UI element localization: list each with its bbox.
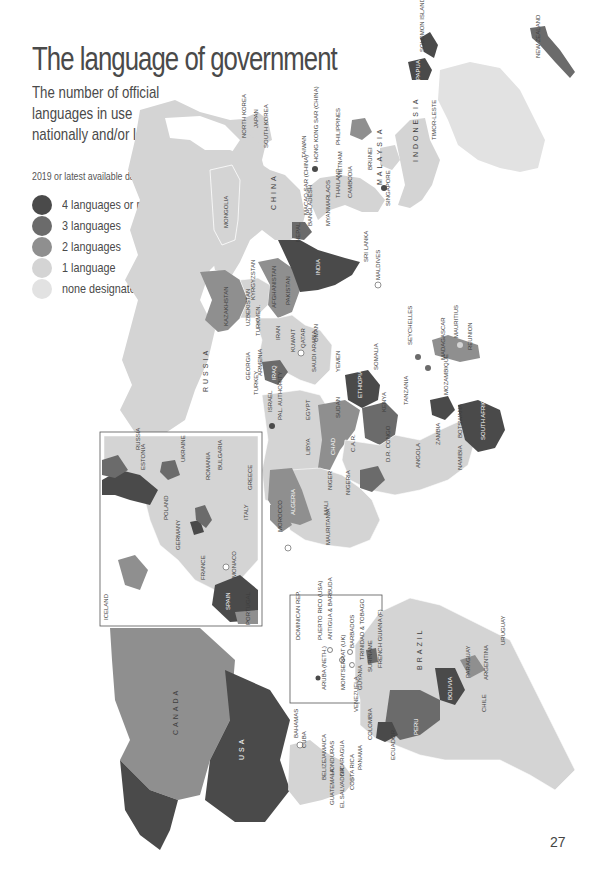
label-spain: SPAIN xyxy=(225,592,231,610)
label-france: FRANCE xyxy=(200,555,206,580)
label-bolivia: BOLIVIA xyxy=(447,677,453,700)
label-japan: JAPAN xyxy=(253,109,259,128)
label-pal-authority: PAL. AUTHORITY xyxy=(277,371,283,420)
label-barbados: BARBADOS xyxy=(349,615,355,648)
label-myanmar: MYANMAR xyxy=(325,195,331,226)
label-tanzania: TANZANIA xyxy=(403,376,409,405)
label-el-salvador: EL SALVADOR xyxy=(339,767,345,808)
label-argentina: ARGENTINA xyxy=(483,645,489,680)
label-somalia: SOMALIA xyxy=(373,343,379,370)
label-greece: GREECE xyxy=(247,465,253,490)
label-india: INDIA xyxy=(315,259,321,275)
label-qatar: QATAR xyxy=(300,328,306,348)
marker-hong-kong xyxy=(312,166,318,172)
label-ethiopia: ETHIOPIA xyxy=(357,370,363,398)
label-sudan: SUDAN xyxy=(335,397,341,418)
label-guatemala: GUATEMALA xyxy=(329,768,335,805)
label-poland: POLAND xyxy=(163,495,169,520)
label-chile: CHILE xyxy=(481,694,487,712)
label-antigua: ANTIGUA & BARBUDA xyxy=(327,577,333,640)
label-cambodia: CAMBODIA xyxy=(347,166,353,198)
label-canada: CANADA xyxy=(172,688,179,735)
marker-cape-verde xyxy=(285,545,291,551)
label-singapore: SINGAPORE xyxy=(385,170,391,206)
label-mongolia: MONGOLIA xyxy=(223,196,229,228)
marker-maldives xyxy=(375,282,381,288)
label-taiwan: TAIWAN xyxy=(301,135,307,158)
label-china: CHINA xyxy=(270,173,277,210)
label-suriname: SURINAME xyxy=(367,640,373,672)
label-vietnam: VIETNAM xyxy=(337,151,343,178)
label-new-zealand: NEW ZEALAND xyxy=(535,14,541,58)
label-montserrat: MONTSERRAT (UK) xyxy=(340,635,346,690)
label-libya: LIBYA xyxy=(305,438,311,455)
region-se-asia xyxy=(305,175,385,220)
label-indonesia: INDONESIA xyxy=(412,96,419,162)
label-costa-rica: COSTA RICA xyxy=(349,754,355,790)
label-portugal: PORTUGAL xyxy=(245,591,251,625)
label-zambia: ZAMBIA xyxy=(435,423,441,445)
page-number: 27 xyxy=(550,834,566,850)
label-afghanistan: AFGHANISTAN xyxy=(271,266,277,308)
label-paraguay: PARAGUAY xyxy=(465,646,471,678)
label-italy: ITALY xyxy=(243,504,249,520)
label-angola: ANGOLA xyxy=(415,443,421,468)
marker-bahrain xyxy=(298,350,304,356)
label-egypt: EGYPT xyxy=(305,399,311,420)
label-kuwait: KUWAIT xyxy=(290,329,296,352)
label-turkmen: TURKMEN. xyxy=(255,304,261,336)
label-panama: PANAMA xyxy=(357,745,363,770)
label-car: C.A.R. xyxy=(350,434,356,452)
label-ecuador: ECUADOR xyxy=(390,729,396,760)
label-bahamas: BAHAMAS xyxy=(293,709,299,738)
label-armenia: ARMENIA xyxy=(257,349,263,376)
label-germany: GERMANY xyxy=(175,520,181,550)
region-zimbabwe xyxy=(430,396,455,420)
marker-mauritius xyxy=(457,342,463,348)
label-kenya: KENYA xyxy=(381,392,387,412)
label-dr-congo: D.R. CONGO xyxy=(385,425,391,462)
label-macao: MACAO SAR (CHINA) xyxy=(303,155,309,215)
world-map: RUSSIA CHINA MONGOLIA KAZAKHSTAN KYRGYZS… xyxy=(0,0,608,872)
label-laos: LAOS xyxy=(325,180,331,196)
label-north-korea: NORTH KOREA xyxy=(241,94,247,138)
label-brunei: BRUNEI xyxy=(367,147,373,170)
region-australia xyxy=(438,62,545,172)
label-mauritania: MAURITANIA xyxy=(325,508,331,545)
label-namibia: NAMIBIA xyxy=(457,445,463,470)
label-solomon: SOLOMON ISLANDS xyxy=(419,0,425,52)
label-philippines: PHILIPPINES xyxy=(335,108,341,145)
region-philippines xyxy=(350,118,372,140)
label-monaco: MONACO xyxy=(231,551,237,578)
label-usa: USA xyxy=(238,737,245,760)
label-morocco: MOROCCO xyxy=(277,500,283,532)
label-dominican: DOMINICAN REP. xyxy=(295,590,301,640)
label-aruba: ARUBA (NETH.) xyxy=(321,646,327,690)
label-nigeria: NIGERIA xyxy=(345,470,351,495)
label-south-africa: SOUTH AFRICA xyxy=(480,396,486,440)
label-maldives: MALDIVES xyxy=(375,250,381,280)
region-south-america xyxy=(355,598,575,790)
label-cuba: CUBA xyxy=(301,731,307,748)
marker-comoros xyxy=(425,365,431,371)
label-kazakhstan: KAZAKHSTAN xyxy=(223,286,229,326)
label-brazil: BRAZIL xyxy=(416,627,423,670)
label-uruguay: URUGUAY xyxy=(500,615,506,645)
label-chad: CHAD xyxy=(330,437,336,455)
label-romania: ROMANIA xyxy=(205,452,211,480)
label-reunion: REUNION xyxy=(467,322,473,350)
label-georgia: GEORGIA xyxy=(245,352,251,380)
label-botswana: BOTSWANA xyxy=(457,404,463,438)
label-uzbekistan: UZBEKISTAN xyxy=(245,289,251,326)
label-trinidad: TRINIDAD & TOBAGO xyxy=(359,599,365,660)
label-ukraine: UKRAINE xyxy=(180,435,186,462)
label-russia: RUSSIA xyxy=(202,348,209,392)
region-russia xyxy=(120,100,270,440)
marker-malta xyxy=(269,423,275,429)
label-sri-lanka: SRI LANKA xyxy=(363,231,369,262)
label-hong-kong: HONG KONG SAR (CHINA) xyxy=(313,86,319,162)
label-mauritius: MAURITIUS xyxy=(453,305,459,338)
label-algeria: ALGERIA xyxy=(290,489,296,515)
label-israel: ISRAEL xyxy=(267,390,273,412)
label-timor-leste: TIMOR-LESTE xyxy=(431,100,437,140)
